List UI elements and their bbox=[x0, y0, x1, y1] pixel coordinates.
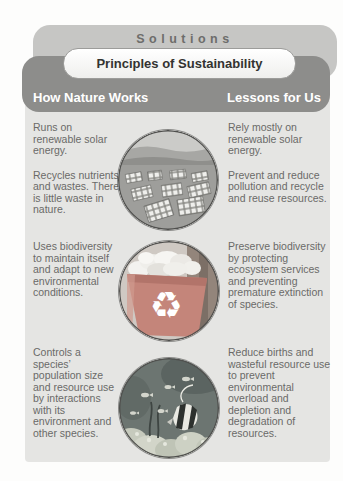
column-heading-lessons: Lessons for Us bbox=[227, 90, 321, 105]
lessons-text-row1: Rely mostly on renewable solar energy. P… bbox=[228, 122, 334, 204]
lessons-text-row2: Preserve biodiversity by protecting ecos… bbox=[228, 241, 334, 310]
lessons-text-row3: Reduce births and wasteful resource use … bbox=[228, 347, 334, 439]
diagram-title: Solutions bbox=[136, 32, 233, 46]
principles-banner-label: Principles of Sustainability bbox=[96, 56, 262, 71]
solar-panel-photo bbox=[118, 130, 218, 230]
paragraph: Rely mostly on renewable solar energy. bbox=[228, 122, 334, 157]
recycling-bin-illustration: ♻ bbox=[119, 241, 219, 341]
coral-reef-illustration bbox=[119, 358, 219, 458]
column-heading-nature: How Nature Works bbox=[33, 90, 148, 105]
paragraph: Recycles nutrients and wastes. There is … bbox=[33, 170, 121, 216]
paragraph: Uses biodiversity to maintain itself and… bbox=[33, 241, 121, 299]
solar-panel-illustration bbox=[118, 130, 218, 230]
paragraph: Preserve biodiversity by protecting ecos… bbox=[228, 241, 334, 310]
nature-text-row2: Uses biodiversity to maintain itself and… bbox=[33, 241, 121, 299]
paragraph: Controls a species’ population size and … bbox=[33, 347, 121, 439]
principles-banner: Principles of Sustainability bbox=[63, 48, 296, 79]
sustainability-diagram: Solutions How Nature Works Lessons for U… bbox=[0, 0, 343, 481]
recycle-symbol-icon: ♻ bbox=[149, 284, 182, 327]
recycling-bin-photo: ♻ bbox=[119, 241, 219, 341]
paragraph: Runs on renewable solar energy. bbox=[33, 122, 121, 157]
coral-reef-photo bbox=[119, 358, 219, 458]
recycling-bin: ♻ bbox=[127, 274, 207, 337]
paragraph: Prevent and reduce pollution and recycle… bbox=[228, 170, 334, 205]
nature-text-row3: Controls a species’ population size and … bbox=[33, 347, 121, 439]
nature-text-row1: Runs on renewable solar energy. Recycles… bbox=[33, 122, 121, 216]
paragraph: Reduce births and wasteful resource use … bbox=[228, 347, 334, 439]
